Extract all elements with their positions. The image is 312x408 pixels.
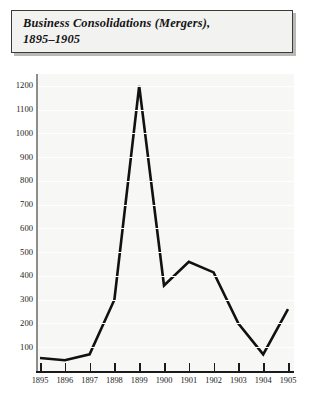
gridline [36,205,294,206]
y-axis-tick-label: 1200 [3,81,33,90]
plot-area [36,74,294,371]
y-axis-labels: 100200300400500600700800900100011001200 [0,0,33,408]
gridline [36,347,294,348]
x-axis-tick [114,363,116,371]
y-axis-tick-label: 200 [3,319,33,328]
gridline [36,181,294,182]
x-axis-tick [263,363,265,371]
y-axis-tick-label: 900 [3,153,33,162]
gridline [36,110,294,111]
x-axis-tick [90,363,92,371]
y-axis-line [36,74,38,373]
chart-figure: Business Consolidations (Mergers), 1895–… [0,0,312,408]
chart-title-box: Business Consolidations (Mergers), 1895–… [11,10,293,53]
y-axis-tick-label: 500 [3,248,33,257]
x-axis-tick [214,363,216,371]
x-axis-tick-label: 1905 [271,376,305,385]
chart-plot-svg [36,74,294,371]
x-axis-line [36,371,294,373]
gridline [36,300,294,301]
x-axis-tick [65,363,67,371]
data-series-line [40,86,288,360]
y-axis-tick-label: 300 [3,295,33,304]
x-axis-tick [40,363,42,371]
gridline [36,133,294,134]
gridline [36,157,294,158]
gridline [36,276,294,277]
x-axis-tick [238,363,240,371]
y-axis-tick-label: 1100 [3,105,33,114]
gridline [36,323,294,324]
y-axis-tick-label: 700 [3,200,33,209]
y-axis-tick-label: 600 [3,224,33,233]
y-axis-tick-label: 1000 [3,129,33,138]
page-title: Business Consolidations (Mergers), 1895–… [23,16,292,47]
x-axis-tick [164,363,166,371]
gridline [36,86,294,87]
x-axis-tick [288,363,290,371]
x-axis-tick [139,363,141,371]
y-axis-tick-label: 800 [3,176,33,185]
gridline [36,252,294,253]
x-axis-tick [189,363,191,371]
y-axis-tick-label: 100 [3,343,33,352]
y-axis-tick-label: 400 [3,271,33,280]
gridline [36,228,294,229]
